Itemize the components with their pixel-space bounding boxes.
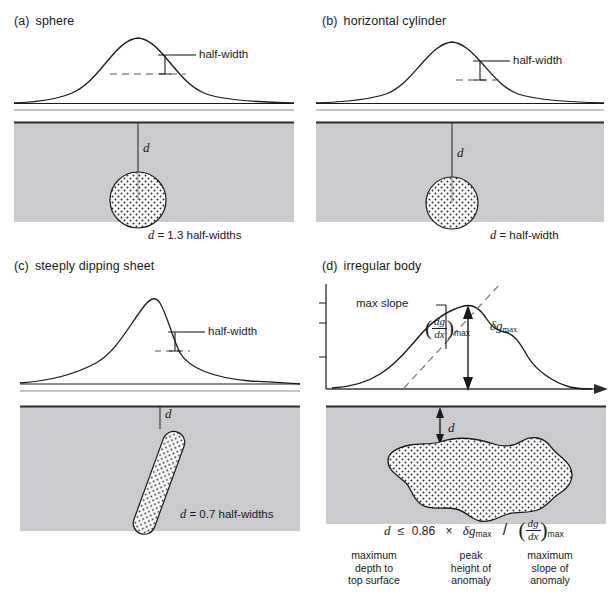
formula-legend-slope-line-2: slope of — [512, 562, 588, 575]
figure-gravity-anomaly-depth-rules: (a)sphere — [0, 0, 616, 595]
formula-legend-slope-line-3: anomaly — [512, 574, 588, 587]
panel-c-caption-symbol: d — [180, 507, 186, 521]
panel-a-tag: (a) — [14, 14, 30, 28]
formula-coefficient: 0.86 — [412, 524, 435, 538]
panel-d-dgdx-numerator: dg — [432, 316, 447, 328]
panel-c-steeply-dipping-sheet: (c)steeply dipping sheet — [0, 255, 308, 540]
panel-d-dgdx-fraction: dgdx — [432, 316, 447, 340]
panel-d-title-text: irregular body — [344, 259, 422, 273]
panel-d-dgdx-subscript: max — [454, 328, 470, 338]
panel-c-title-text: steeply dipping sheet — [35, 259, 155, 273]
panel-d-dgmax-label: δgmax — [490, 318, 517, 334]
formula-denom-numerator: dg — [526, 518, 541, 530]
panel-b-graphic — [308, 30, 616, 240]
panel-c-title: (c)steeply dipping sheet — [14, 259, 154, 273]
panel-a-sphere: (a)sphere — [0, 0, 308, 250]
panel-b-anomaly-curve — [316, 42, 604, 103]
formula-legend-depth-line-2: depth to — [336, 562, 412, 575]
panel-d-max-slope-label: max slope — [356, 297, 408, 309]
panel-d-dgdx-paren-close: ) — [447, 316, 454, 340]
panel-b-half-width-bracket — [473, 61, 488, 80]
panel-d-graphic — [308, 275, 616, 525]
panel-b-caption-value: = half-width — [499, 229, 558, 241]
panel-a-caption-symbol: d — [148, 228, 154, 242]
panel-c-half-width-bracket — [168, 332, 183, 351]
panel-d-dgdx-denominator: dx — [432, 328, 447, 341]
panel-b-depth-label: d — [457, 145, 464, 161]
panel-b-caption: d = half-width — [490, 228, 559, 243]
panel-c-caption: d = 0.7 half-widths — [180, 507, 274, 522]
formula-denom-paren-open: ( — [519, 518, 526, 542]
formula-denom-paren-close: ) — [541, 518, 548, 542]
formula-legend-peak-line-1: peak — [438, 549, 504, 562]
formula-legend-depth-line-1: maximum — [336, 549, 412, 562]
panel-d-dgmax-subscript: max — [503, 324, 518, 334]
panel-a-title: (a)sphere — [14, 14, 74, 28]
panel-b-caption-symbol: d — [490, 228, 496, 242]
formula-legend-peak-line-3: anomaly — [438, 574, 504, 587]
panel-c-caption-value: = 0.7 half-widths — [189, 508, 273, 520]
panel-a-caption: d = 1.3 half-widths — [148, 228, 242, 243]
formula-times: × — [445, 524, 452, 538]
panel-a-caption-value: = 1.3 half-widths — [157, 229, 241, 241]
panel-a-title-text: sphere — [36, 14, 75, 28]
panel-a-depth-label: d — [143, 140, 150, 156]
formula-numerator-subscript: max — [475, 529, 491, 539]
panel-b-half-width-label: half-width — [513, 54, 562, 66]
panel-c-depth-label: d — [165, 406, 172, 422]
panel-d-tag: (d) — [322, 259, 338, 273]
panel-d-dgdx-max-label: (dgdx)max — [425, 317, 470, 342]
formula-legend-depth: maximum depth to top surface — [336, 549, 412, 587]
formula-relation: ≤ — [398, 524, 405, 538]
formula-legend-peak-height: peak height of anomaly — [438, 549, 504, 587]
panel-d-irregular-body: (d)irregular body — [308, 255, 616, 595]
panel-c-tag: (c) — [14, 259, 29, 273]
formula-legend-peak-line-2: height of — [438, 562, 504, 575]
panel-c-graphic — [0, 275, 308, 530]
formula-divide: / — [503, 521, 507, 538]
panel-d-title: (d)irregular body — [322, 259, 421, 273]
panel-b-title: (b)horizontal cylinder — [322, 14, 446, 28]
formula-d-symbol: d — [384, 523, 391, 538]
formula-legend-max-slope: maximum slope of anomaly — [512, 549, 588, 587]
formula-legend-slope-line-1: maximum — [512, 549, 588, 562]
formula-denominator-fraction: dgdx — [526, 518, 541, 542]
formula-denom-subscript: max — [548, 529, 564, 539]
panel-a-anomaly-curve — [14, 38, 294, 103]
panel-c-anomaly-curve — [20, 299, 300, 384]
panel-d-x-axis-arrowhead — [594, 384, 608, 394]
panel-b-title-text: horizontal cylinder — [344, 14, 447, 28]
formula-numerator-symbol: δg — [463, 523, 476, 538]
panel-a-graphic — [0, 30, 308, 240]
panel-b-horizontal-cylinder: (b)horizontal cylinder half-width — [308, 0, 616, 250]
panel-c-half-width-label: half-width — [208, 325, 257, 337]
panel-a-half-width-label: half-width — [199, 48, 248, 60]
formula-denom-denominator: dx — [526, 530, 541, 543]
panel-b-tag: (b) — [322, 14, 338, 28]
formula-legend-depth-line-3: top surface — [336, 574, 412, 587]
panel-d-depth-label: d — [448, 420, 455, 436]
panel-d-dgdx-paren-open: ( — [425, 316, 432, 340]
depth-rule-formula: d ≤ 0.86 × δgmax / (dgdx)max — [384, 519, 564, 544]
panel-d-dgmax-symbol: δg — [490, 318, 503, 333]
